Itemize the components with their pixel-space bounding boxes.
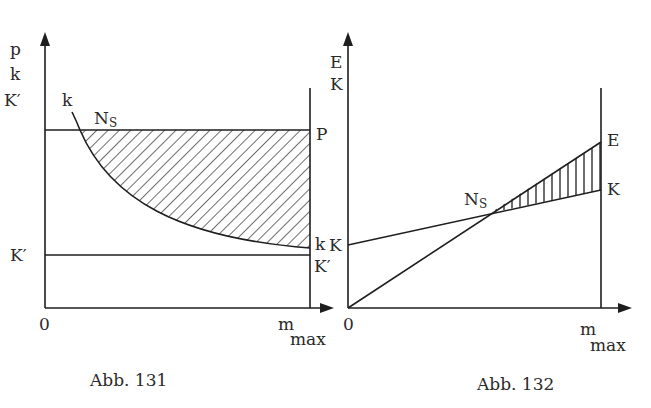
origin-label-132: 0 [343, 314, 354, 334]
x-label-max-131: max [290, 329, 326, 349]
ns-hatched-area-131 [80, 130, 310, 248]
right-label-kprime: K′ [314, 256, 331, 276]
right-label-e: E [607, 130, 619, 150]
y-label-p: p [10, 39, 21, 59]
left-label-kprime: K′ [10, 245, 27, 265]
caption-131: Abb. 131 [89, 370, 167, 390]
y-label-k: K [330, 74, 343, 94]
origin-label-131: 0 [39, 314, 50, 334]
figure-131: p k K′ k NS P k K′ K′ 0 m max Abb. 131 [4, 32, 334, 390]
area-label-ns: NS [94, 108, 117, 130]
curve-label-k: k [62, 90, 73, 110]
figure-132: E K K NS E K 0 m max Abb. 132 [329, 32, 632, 394]
figure-canvas: p k K′ k NS P k K′ K′ 0 m max Abb. 131 [0, 0, 651, 408]
left-label-k: K [329, 235, 342, 255]
y-label-kprime: K′ [4, 90, 21, 110]
y-axis-arrow-icon [40, 32, 50, 46]
right-label-p: P [316, 124, 327, 144]
y-axis-arrow-icon [343, 32, 353, 46]
y-label-e: E [330, 52, 342, 72]
right-label-k: k [315, 234, 326, 254]
x-label-max-132: max [590, 335, 626, 355]
revenue-line-e [348, 142, 601, 308]
caption-132: Abb. 132 [476, 374, 554, 394]
y-label-k: k [10, 64, 21, 84]
right-label-k: K [607, 179, 620, 199]
x-axis-arrow-icon [618, 303, 632, 313]
x-axis-arrow-icon [320, 303, 334, 313]
intersection-label-ns: NS [464, 189, 487, 211]
